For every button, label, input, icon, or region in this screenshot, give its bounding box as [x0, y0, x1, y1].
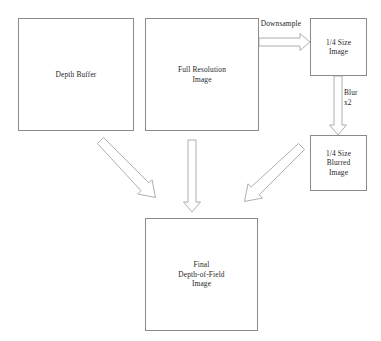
blur-arrow-label: Blur x2	[344, 88, 376, 107]
node-full-resolution-image-label: Full Resolution Image	[178, 65, 226, 84]
downsample-arrow-label: Downsample	[252, 19, 310, 29]
node-quarter-size-image-label: 1/4 Size Image	[326, 38, 351, 57]
node-quarter-size-blurred-image: 1/4 Size Blurred Image	[310, 135, 367, 191]
node-final-depth-of-field-image-label: Final Depth-of-Field Image	[178, 260, 224, 288]
node-quarter-size-blurred-image-label: 1/4 Size Blurred Image	[326, 149, 351, 177]
node-quarter-size-image: 1/4 Size Image	[310, 18, 367, 76]
downsample-arrow	[259, 34, 310, 51]
depth-buffer-to-final-arrow	[98, 138, 156, 198]
node-final-depth-of-field-image: Final Depth-of-Field Image	[145, 218, 258, 331]
full-resolution-to-final-arrow	[184, 140, 201, 212]
node-depth-buffer: Depth Buffer	[18, 18, 134, 131]
node-depth-buffer-label: Depth Buffer	[56, 70, 97, 79]
blurred-to-final-arrow	[245, 144, 305, 202]
diagram-canvas: Depth Buffer Full Resolution Image 1/4 S…	[0, 0, 381, 341]
node-full-resolution-image: Full Resolution Image	[145, 18, 259, 131]
